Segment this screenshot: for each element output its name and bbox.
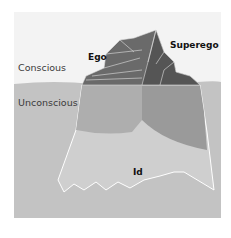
ego-label: Ego (88, 52, 107, 62)
id-label: Id (133, 167, 143, 177)
superego-label: Superego (170, 40, 219, 50)
conscious-label: Conscious (18, 62, 66, 73)
iceberg-diagram: Conscious Unconscious Ego Superego Id (14, 12, 221, 218)
unconscious-label: Unconscious (18, 97, 78, 108)
ego-underwater (76, 85, 142, 134)
